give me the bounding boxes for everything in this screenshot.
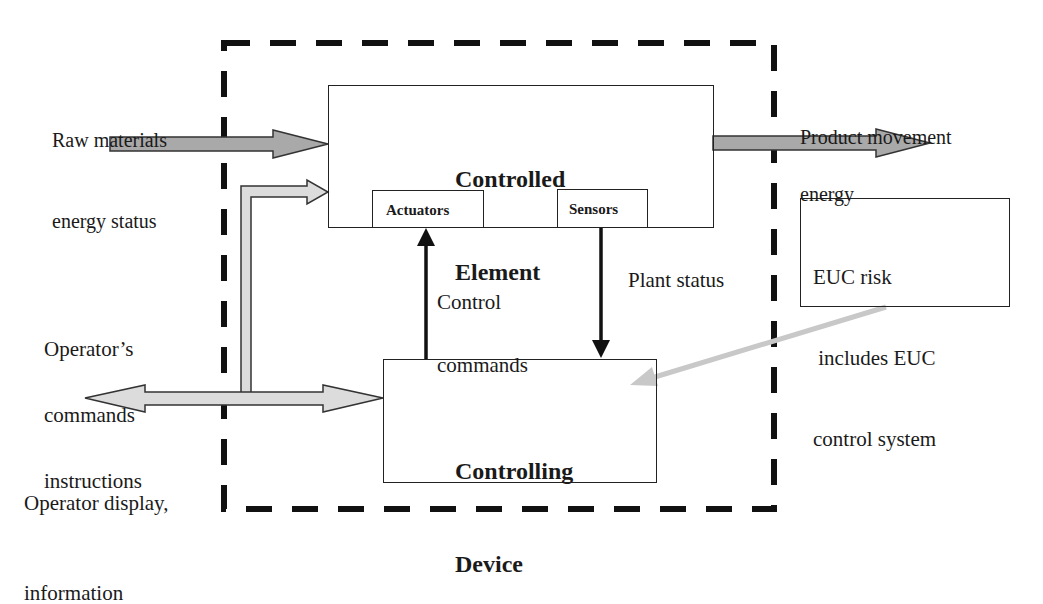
operator-commands-line2: commands	[44, 404, 142, 426]
operator-commands-line1: Operator’s	[44, 338, 142, 360]
product-line2: energy	[800, 185, 952, 204]
raw-materials-line1: Raw materials	[52, 127, 167, 154]
plant-status-label: Plant status	[628, 271, 724, 290]
euc-note-line2: includes EUC	[813, 345, 936, 372]
product-label: Product movement energy	[800, 90, 952, 223]
control-commands-arrowhead	[417, 228, 435, 246]
control-commands-line1: Control	[437, 292, 528, 313]
actuators-label: Actuators	[386, 203, 449, 218]
raw-materials-label: Raw materials energy status	[52, 73, 167, 262]
control-commands-line2: commands	[437, 355, 528, 376]
euc-risk-note-text: EUC risk includes EUC control system	[813, 210, 936, 480]
operator-display-label: Operator display, information	[24, 428, 168, 604]
raw-materials-line2: energy status	[52, 208, 167, 235]
operator-commands-arrow	[241, 180, 328, 395]
euc-note-line1: EUC risk	[813, 264, 936, 291]
operator-display-line2: information	[24, 578, 168, 604]
product-line1: Product movement	[800, 128, 952, 147]
controlling-device-title-line2: Device	[455, 549, 573, 580]
plant-status-arrowhead	[592, 340, 610, 358]
controlling-device-title: Controlling Device	[455, 394, 573, 604]
sensors-label: Sensors	[569, 202, 618, 217]
control-commands-label: Control commands	[437, 250, 528, 397]
euc-note-line3: control system	[813, 426, 936, 453]
controlling-device-title-line1: Controlling	[455, 456, 573, 487]
operator-display-line1: Operator display,	[24, 488, 168, 518]
